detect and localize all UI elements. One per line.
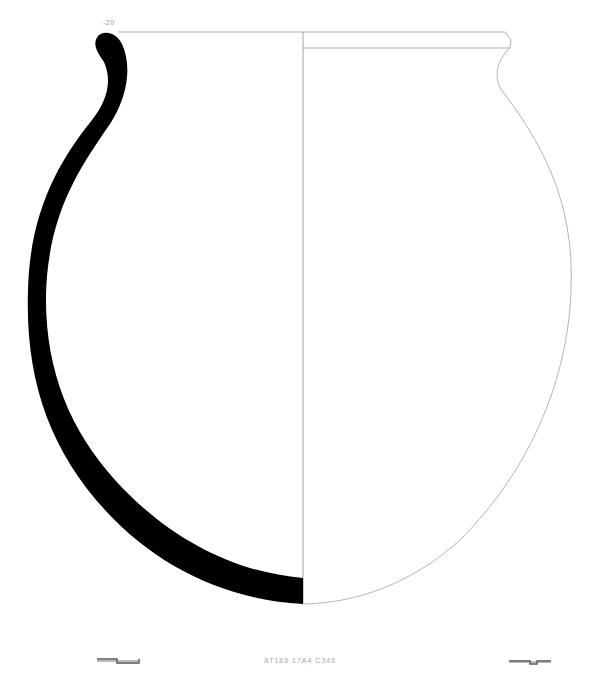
scale-bar-left [97,659,139,663]
scale-bar-right [509,661,551,664]
rim-bevel [505,32,511,48]
vessel-section [28,33,303,604]
exterior-outline [303,48,571,604]
pottery-drawing [0,0,599,683]
catalog-number-label: AT186 17A4 C346 [264,657,336,664]
rim-diameter-label: -20 [103,19,115,26]
